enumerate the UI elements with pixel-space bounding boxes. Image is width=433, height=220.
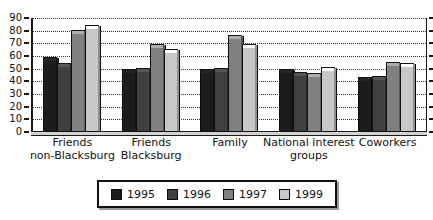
bar-1995-4 xyxy=(279,72,293,132)
y-tick-mark-0 xyxy=(24,131,29,133)
y-tick-label-60: 60 xyxy=(9,51,22,61)
right-tick-mark-20 xyxy=(429,106,433,108)
bar-1995-1 xyxy=(43,60,57,132)
legend-swatch-1996 xyxy=(167,189,178,200)
bars-layer xyxy=(33,18,427,132)
y-tick-label-40: 40 xyxy=(9,76,22,86)
bar-chart: 0102030405060708090 Friendsnon-Blacksbur… xyxy=(0,0,433,220)
bar-1995-2 xyxy=(122,72,136,132)
legend-label-1997: 1997 xyxy=(239,189,267,200)
bar-top-face xyxy=(307,73,321,77)
bar-top-face xyxy=(200,69,214,73)
y-tick-mark-80 xyxy=(24,30,29,32)
y-tick-label-90: 90 xyxy=(9,13,22,23)
bar-group-3 xyxy=(191,18,270,132)
legend-entry-1999[interactable]: 1999 xyxy=(279,189,323,200)
y-tick-label-30: 30 xyxy=(9,89,22,99)
y-tick-mark-90 xyxy=(24,17,29,19)
bar-top-face xyxy=(122,69,136,73)
y-tick-mark-60 xyxy=(24,55,29,57)
y-tick-label-50: 50 xyxy=(9,64,22,74)
right-tick-mark-80 xyxy=(429,30,433,32)
bar-1999-5 xyxy=(400,66,414,132)
bar-1999-1 xyxy=(85,28,99,132)
y-tick-mark-10 xyxy=(24,118,29,120)
bar-side-face xyxy=(98,26,101,131)
y-tick-mark-20 xyxy=(24,106,29,108)
right-tick-mark-0 xyxy=(429,131,433,133)
right-tick-mark-10 xyxy=(429,118,433,120)
bar-side-face xyxy=(413,64,416,131)
legend-label-1999: 1999 xyxy=(295,189,323,200)
bar-group-2 xyxy=(112,18,191,132)
bar-side-face xyxy=(177,50,180,131)
right-tick-mark-30 xyxy=(429,93,433,95)
x-label-line: Coworkers xyxy=(336,136,433,149)
bar-top-face xyxy=(386,62,400,66)
legend-entries: 1995199619971999 xyxy=(99,182,335,206)
chart-legend: 1995199619971999 xyxy=(97,180,337,208)
bar-group-5 xyxy=(348,18,427,132)
bar-top-face xyxy=(85,25,99,29)
legend-swatch-1997 xyxy=(223,189,234,200)
bar-top-face xyxy=(214,68,228,72)
right-axis-ticks xyxy=(428,18,433,132)
bar-side-face xyxy=(255,45,258,131)
bar-top-face xyxy=(358,77,372,81)
bar-1996-4 xyxy=(293,75,307,132)
legend-label-1995: 1995 xyxy=(127,189,155,200)
legend-swatch-1995 xyxy=(111,189,122,200)
bar-top-face xyxy=(279,69,293,73)
y-tick-mark-50 xyxy=(24,68,29,70)
bar-1995-5 xyxy=(358,80,372,132)
bar-1996-3 xyxy=(214,71,228,132)
y-tick-label-70: 70 xyxy=(9,38,22,48)
bar-1997-1 xyxy=(71,33,85,132)
right-tick-mark-50 xyxy=(429,68,433,70)
bar-top-face xyxy=(57,63,71,67)
bar-top-face xyxy=(71,30,85,34)
right-tick-mark-60 xyxy=(429,55,433,57)
bar-side-face xyxy=(334,68,337,131)
legend-label-1996: 1996 xyxy=(183,189,211,200)
x-label-line: groups xyxy=(257,149,360,162)
y-tick-mark-40 xyxy=(24,80,29,82)
bar-1997-2 xyxy=(150,47,164,132)
bar-top-face xyxy=(293,72,307,76)
legend-swatch-1999 xyxy=(279,189,290,200)
bar-1997-4 xyxy=(307,76,321,132)
y-axis: 0102030405060708090 xyxy=(0,18,29,132)
bar-top-face xyxy=(372,76,386,80)
bar-1997-3 xyxy=(228,38,242,132)
bar-top-face xyxy=(164,49,178,53)
bar-1996-2 xyxy=(136,71,150,132)
x-label-line: Blacksburg xyxy=(100,149,203,162)
bar-top-face xyxy=(242,44,256,48)
y-tick-label-10: 10 xyxy=(9,114,22,124)
legend-entry-1996[interactable]: 1996 xyxy=(167,189,211,200)
bar-1999-2 xyxy=(164,52,178,132)
bar-group-1 xyxy=(33,18,112,132)
right-tick-mark-70 xyxy=(429,42,433,44)
bar-top-face xyxy=(321,67,335,71)
bar-1996-5 xyxy=(372,79,386,132)
x-axis-category-labels: Friendsnon-BlacksburgFriendsBlacksburgFa… xyxy=(33,136,427,174)
legend-entry-1997[interactable]: 1997 xyxy=(223,189,267,200)
bar-top-face xyxy=(150,44,164,48)
x-label-5: Coworkers xyxy=(336,136,433,149)
right-tick-mark-90 xyxy=(429,17,433,19)
right-tick-mark-40 xyxy=(429,80,433,82)
y-tick-mark-30 xyxy=(24,93,29,95)
bar-top-face xyxy=(400,63,414,67)
bar-1995-3 xyxy=(200,72,214,132)
bar-group-4 xyxy=(269,18,348,132)
y-tick-label-80: 80 xyxy=(9,26,22,36)
bar-1999-3 xyxy=(242,47,256,132)
y-tick-label-20: 20 xyxy=(9,102,22,112)
bar-top-face xyxy=(136,68,150,72)
legend-entry-1995[interactable]: 1995 xyxy=(111,189,155,200)
bar-1996-1 xyxy=(57,66,71,132)
y-tick-mark-70 xyxy=(24,42,29,44)
bar-1997-5 xyxy=(386,65,400,132)
bar-top-face xyxy=(228,35,242,39)
